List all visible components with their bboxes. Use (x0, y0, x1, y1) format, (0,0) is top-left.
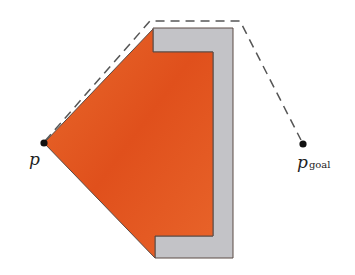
start-label: p (29, 149, 40, 169)
goal-label: pgoal (297, 152, 330, 172)
goal-point (299, 140, 306, 147)
goal-label-subscript: goal (309, 159, 331, 170)
visibility-region (44, 29, 213, 258)
start-point (40, 139, 47, 146)
diagram-canvas: p pgoal (0, 0, 355, 275)
goal-label-main: p (297, 152, 308, 172)
